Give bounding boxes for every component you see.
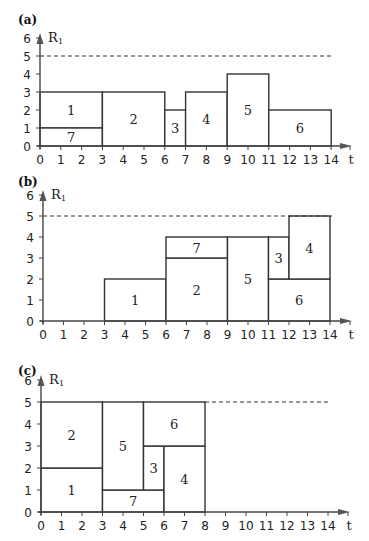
job-label: 6 bbox=[296, 121, 304, 136]
x-tick-label: 12 bbox=[279, 519, 294, 533]
job-label: 3 bbox=[150, 461, 158, 476]
y-tick-label: 2 bbox=[26, 273, 34, 287]
job-label: 4 bbox=[202, 112, 210, 127]
x-tick-label: 5 bbox=[140, 153, 148, 167]
x-tick-label: 2 bbox=[80, 328, 88, 342]
x-tick-label: 11 bbox=[261, 153, 276, 167]
y-tick-label: 0 bbox=[26, 315, 34, 329]
x-tick-label: 9 bbox=[223, 153, 231, 167]
job-label: 4 bbox=[305, 241, 313, 256]
panel-a: (a)1723456012345601234567891011121314tR1 bbox=[18, 13, 354, 167]
x-axis-label: t bbox=[346, 518, 352, 533]
x-tick-label: 13 bbox=[302, 328, 317, 342]
x-tick-label: 12 bbox=[282, 153, 297, 167]
x-tick-label: 11 bbox=[259, 519, 274, 533]
x-tick-label: 5 bbox=[140, 519, 148, 533]
x-tick-label: 8 bbox=[203, 153, 211, 167]
job-label: 2 bbox=[193, 283, 201, 298]
job-label: 5 bbox=[119, 439, 127, 454]
x-tick-label: 6 bbox=[160, 519, 168, 533]
x-tick-label: 13 bbox=[300, 519, 315, 533]
x-tick-label: 3 bbox=[99, 153, 107, 167]
job-label: 3 bbox=[275, 251, 283, 266]
y-tick-label: 4 bbox=[24, 418, 32, 432]
x-tick-label: 5 bbox=[142, 328, 150, 342]
x-tick-label: 7 bbox=[181, 519, 189, 533]
y-tick-label: 6 bbox=[24, 374, 32, 388]
y-tick-label: 3 bbox=[26, 252, 34, 266]
x-tick-label: 8 bbox=[203, 328, 211, 342]
x-tick-label: 4 bbox=[119, 519, 127, 533]
panel-c: (c)1275346012345601234567891011121314tR1 bbox=[18, 364, 352, 533]
job-label: 6 bbox=[295, 293, 303, 308]
job-label: 2 bbox=[68, 428, 76, 443]
y-tick-label: 2 bbox=[23, 104, 31, 118]
x-tick-label: 10 bbox=[240, 328, 255, 342]
y-tick-label: 3 bbox=[24, 440, 32, 454]
y-tick-label: 1 bbox=[24, 484, 32, 498]
y-axis-label-subscript: 1 bbox=[58, 37, 63, 46]
panel-label: (b) bbox=[18, 175, 38, 189]
job-label: 3 bbox=[171, 121, 179, 136]
x-tick-label: 9 bbox=[222, 519, 230, 533]
x-tick-label: 7 bbox=[182, 153, 190, 167]
x-tick-label: 6 bbox=[162, 328, 170, 342]
x-tick-label: 2 bbox=[78, 519, 86, 533]
y-tick-label: 5 bbox=[26, 210, 34, 224]
y-tick-label: 4 bbox=[23, 68, 31, 82]
panel-label: (a) bbox=[18, 13, 37, 27]
x-tick-label: 4 bbox=[121, 328, 129, 342]
job-label: 6 bbox=[170, 417, 178, 432]
y-tick-label: 2 bbox=[24, 462, 32, 476]
y-axis-label-subscript: 1 bbox=[61, 194, 66, 203]
x-tick-label: 1 bbox=[58, 519, 66, 533]
y-tick-label: 6 bbox=[23, 32, 31, 46]
x-tick-label: 0 bbox=[39, 328, 47, 342]
resource-profile-figure: (a)1723456012345601234567891011121314tR1… bbox=[0, 0, 369, 541]
x-tick-label: 1 bbox=[60, 328, 68, 342]
y-tick-label: 3 bbox=[23, 86, 31, 100]
x-tick-label: 1 bbox=[57, 153, 65, 167]
y-tick-label: 5 bbox=[24, 396, 32, 410]
x-axis-label: t bbox=[348, 327, 354, 342]
x-tick-label: 0 bbox=[37, 519, 45, 533]
job-label: 5 bbox=[244, 103, 252, 118]
x-tick-label: 14 bbox=[320, 519, 335, 533]
x-tick-label: 14 bbox=[322, 328, 337, 342]
x-axis-label: t bbox=[348, 152, 354, 167]
x-tick-label: 11 bbox=[261, 328, 276, 342]
y-tick-label: 4 bbox=[26, 231, 34, 245]
x-tick-label: 3 bbox=[101, 328, 109, 342]
y-tick-label: 1 bbox=[23, 122, 31, 136]
job-label: 7 bbox=[67, 130, 75, 145]
x-tick-label: 3 bbox=[99, 519, 107, 533]
x-tick-label: 2 bbox=[78, 153, 86, 167]
job-label: 1 bbox=[68, 483, 76, 498]
x-tick-label: 0 bbox=[36, 153, 44, 167]
job-label: 5 bbox=[244, 272, 252, 287]
x-tick-label: 8 bbox=[201, 519, 209, 533]
y-tick-label: 0 bbox=[24, 506, 32, 520]
y-tick-label: 0 bbox=[23, 140, 31, 154]
job-label: 1 bbox=[131, 293, 139, 308]
x-tick-label: 10 bbox=[238, 519, 253, 533]
y-axis-label-subscript: 1 bbox=[59, 379, 64, 388]
job-label: 4 bbox=[180, 472, 188, 487]
job-label: 7 bbox=[193, 241, 201, 256]
x-tick-label: 7 bbox=[183, 328, 191, 342]
y-tick-label: 5 bbox=[23, 50, 31, 64]
x-tick-label: 9 bbox=[224, 328, 232, 342]
job-label: 7 bbox=[129, 494, 137, 509]
y-tick-label: 1 bbox=[26, 294, 34, 308]
x-tick-label: 4 bbox=[119, 153, 127, 167]
job-label: 2 bbox=[129, 112, 137, 127]
job-label: 1 bbox=[67, 103, 75, 118]
x-tick-label: 6 bbox=[161, 153, 169, 167]
x-tick-label: 13 bbox=[303, 153, 318, 167]
x-tick-label: 12 bbox=[281, 328, 296, 342]
y-tick-label: 6 bbox=[26, 189, 34, 203]
panel-b: (b)1275634012345601234567891011121314tR1 bbox=[18, 175, 354, 342]
x-tick-label: 10 bbox=[240, 153, 255, 167]
x-tick-label: 14 bbox=[324, 153, 339, 167]
